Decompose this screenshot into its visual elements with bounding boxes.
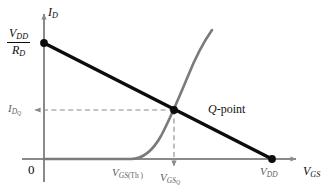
y-intercept-denominator: RD [7, 43, 30, 58]
x-axis-label: VGS [303, 165, 320, 179]
q-point-label: Q-point [208, 103, 245, 115]
vdd-label: VDD [260, 166, 278, 179]
mosfet-load-line-figure: VDD RD ID VGS 0 IDQ VGS(Th ) VGSQ VDD Q-… [0, 0, 333, 195]
vgsq-label: VGSQ [160, 172, 180, 186]
y-intercept-dot [40, 39, 48, 47]
x-intercept-dot [268, 155, 276, 163]
y-intercept-label: VDD RD [7, 27, 30, 59]
y-intercept-numerator: VDD [7, 27, 30, 43]
y-axis-label: ID [48, 6, 58, 20]
idq-label: IDQ [8, 103, 21, 117]
transfer-characteristic-curve [44, 30, 212, 159]
q-point-dot [170, 106, 178, 114]
origin-label: 0 [28, 163, 35, 176]
plot-canvas [0, 0, 333, 195]
vgs-threshold-label: VGS(Th ) [112, 167, 143, 180]
